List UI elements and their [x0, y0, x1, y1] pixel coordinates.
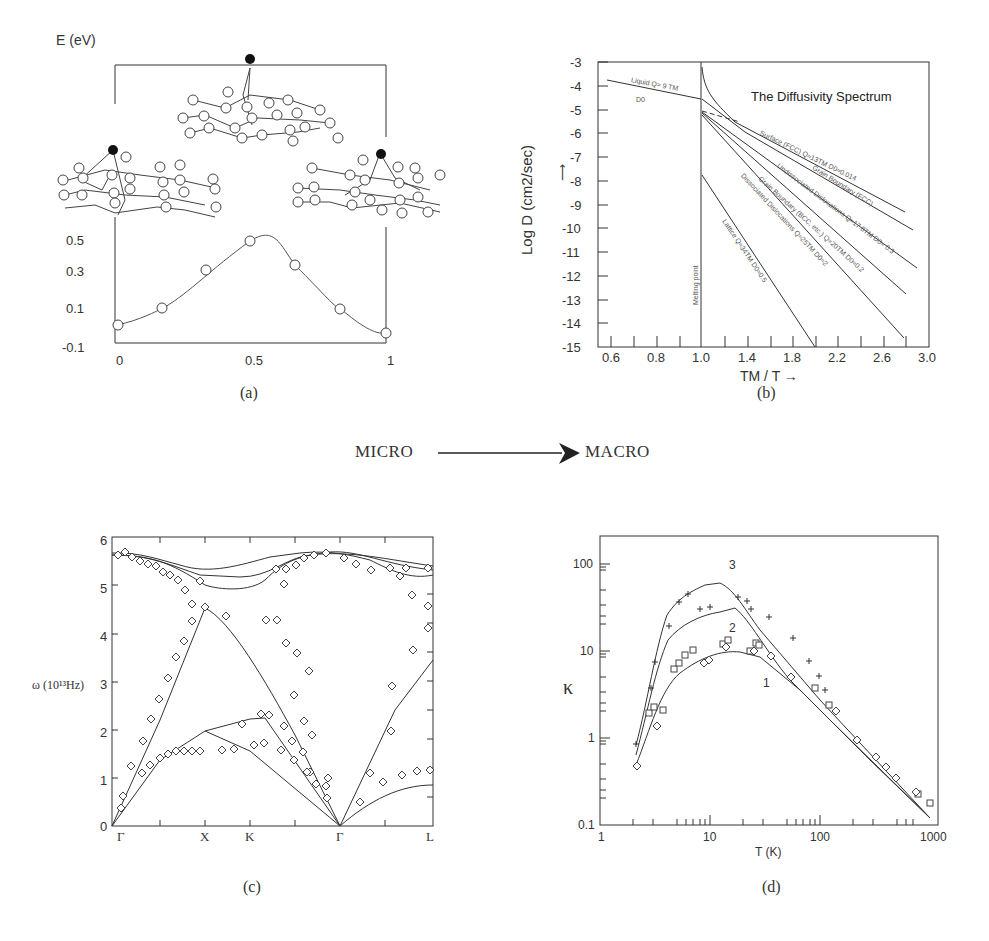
square-markers — [646, 637, 933, 806]
plus-markers — [633, 591, 828, 747]
curve-label-3: 3 — [729, 558, 736, 572]
curve-label-2: 2 — [729, 621, 736, 635]
panel-d-xlabel: T (K) — [755, 845, 781, 859]
panel-d-graphics — [0, 0, 989, 941]
panel-d-ylabel: κ — [563, 676, 573, 699]
ytick: 100 — [573, 557, 593, 571]
curve-label-1: 1 — [763, 676, 770, 690]
ytick: 0.1 — [578, 818, 595, 832]
ytick: 1 — [588, 731, 595, 745]
xtick: 10 — [703, 830, 716, 844]
caption-d: (d) — [762, 878, 781, 896]
xtick: 100 — [810, 830, 830, 844]
xtick: 1000 — [920, 830, 947, 844]
ytick: 10 — [580, 644, 593, 658]
xtick: 1 — [598, 830, 605, 844]
